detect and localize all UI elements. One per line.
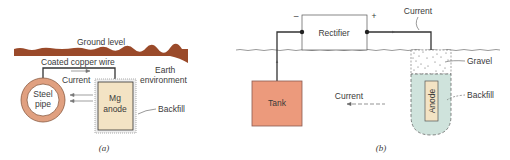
arrow-up-tank-wire — [276, 60, 278, 63]
wire-label: Coated copper wire — [41, 57, 115, 67]
current-arrows-left — [70, 94, 93, 103]
earth-label-line2: environment — [140, 75, 187, 85]
anode-label-line1: Mg — [109, 93, 121, 103]
wire-tank — [277, 32, 302, 81]
current-label-a: Current — [62, 75, 91, 85]
anode-label-line2: anode — [103, 104, 127, 114]
earth-label-line1: Earth — [155, 65, 176, 75]
current-arrow-ground — [347, 103, 385, 106]
junction-minus — [300, 30, 304, 34]
tank-label: Tank — [268, 98, 287, 108]
figure-b: Rectifier – + Current Gravel Ano — [236, 6, 500, 153]
current-top-leader — [416, 17, 419, 30]
backfill-leader-a — [138, 109, 156, 114]
gravel-label: Gravel — [467, 56, 492, 66]
caption-b: (b) — [376, 143, 387, 153]
current-label-ground: Current — [335, 91, 364, 101]
current-arrow-top — [71, 70, 90, 73]
current-label-top: Current — [404, 6, 433, 16]
rectifier-label: Rectifier — [318, 28, 349, 38]
pipe-label-line1: Steel — [33, 89, 52, 99]
ground-level-label: Ground level — [77, 37, 125, 47]
pipe-label-line2: pipe — [35, 99, 51, 109]
caption-a: (a) — [99, 143, 110, 153]
arrow-right-wire — [392, 31, 395, 33]
anode-label-b: Anode — [427, 88, 437, 113]
junction-plus — [365, 30, 369, 34]
figure-a: Ground level Coated copper wire Current … — [14, 37, 188, 153]
minus-terminal: – — [294, 11, 299, 21]
backfill-label-a: Backfill — [158, 104, 185, 114]
plus-terminal: + — [372, 11, 377, 21]
ground-line-b — [236, 50, 500, 51]
backfill-label-b: Backfill — [467, 90, 494, 100]
